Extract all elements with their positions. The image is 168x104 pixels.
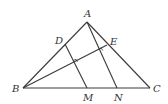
label-M: M	[82, 92, 94, 103]
label-C: C	[153, 83, 161, 94]
segment-DM	[65, 44, 87, 88]
label-N: N	[113, 92, 124, 103]
label-A: A	[83, 8, 91, 19]
segment-AB	[23, 22, 87, 88]
label-E: E	[109, 36, 118, 47]
segment-AC	[87, 22, 150, 88]
segment-AN	[87, 22, 117, 88]
triangle-diagram: A B C D E M N	[0, 0, 168, 104]
segment-BE	[23, 45, 107, 88]
label-B: B	[11, 83, 19, 94]
label-D: D	[54, 35, 63, 46]
